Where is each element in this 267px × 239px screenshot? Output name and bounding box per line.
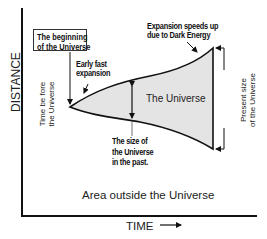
- past-size-label: The size of the Universe in the past.: [112, 136, 153, 168]
- early-expansion-label: Early fast expansion: [76, 60, 110, 79]
- present-size-label: Present size of the Universe: [239, 60, 257, 140]
- universe-expansion-diagram: The beginning of the Universe Early fast…: [0, 0, 267, 239]
- outside-universe-label: Area outside the Universe: [82, 189, 214, 201]
- dark-energy-label: Expansion speeds up due to Dark Energy: [147, 22, 218, 41]
- y-axis-label: DISTANCE: [9, 52, 23, 112]
- time-before-universe-label: Time be fore the Universe: [38, 74, 56, 134]
- x-axis-label: TIME: [126, 220, 153, 232]
- beginning-label: The beginning of the Universe: [37, 32, 90, 52]
- beginning-box: The beginning of the Universe: [33, 29, 87, 51]
- early-expansion-arrow: [84, 84, 88, 93]
- dark-energy-arrow: [187, 42, 197, 52]
- universe-label: The Universe: [146, 93, 205, 104]
